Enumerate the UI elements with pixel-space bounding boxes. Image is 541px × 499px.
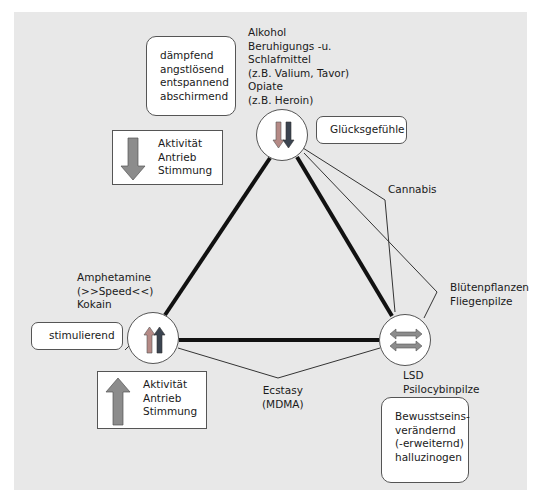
cannabis-path: [303, 148, 395, 312]
left-effects-text: stimulierend: [49, 329, 115, 343]
top-effects-text: dämpfend angstlösend entspannend abschir…: [160, 49, 229, 103]
edge-top-right: [297, 157, 392, 316]
double-down-arrows-icon: [257, 110, 309, 162]
double-up-arrows-icon: [128, 313, 180, 365]
right-effects-text: Bewusstseins- verändernd (-erweiternd) h…: [395, 410, 470, 464]
right-node-circle: [379, 314, 431, 366]
glueck-box: Glücksgefühle: [316, 116, 407, 144]
left-effects-box: stimulierend: [31, 322, 123, 350]
top-effects-box: dämpfend angstlösend entspannend abschir…: [146, 36, 236, 116]
left-node-circle: [127, 312, 179, 364]
down-arrow-icon: [119, 134, 149, 184]
right-substances-label: LSD Psilocybinpilze: [403, 369, 480, 396]
top-level-text: Aktivität Antrieb Stimmung: [158, 137, 212, 178]
double-horizontal-arrows-icon: [380, 315, 432, 367]
top-node-circle: [256, 109, 308, 161]
ecstasy-label: Ecstasy (MDMA): [262, 384, 304, 411]
right-effects-box: Bewusstseins- verändernd (-erweiternd) h…: [381, 397, 469, 483]
glueck-text: Glücksgefühle: [330, 123, 405, 137]
top-substances-label: Alkohol Beruhigungs -u. Schlafmittel (z.…: [248, 26, 349, 107]
top-level-box: Aktivität Antrieb Stimmung: [112, 130, 223, 185]
ecstasy-path: [178, 348, 380, 378]
bluetenpflanzen-path: [304, 153, 437, 318]
left-level-box: Aktivität Antrieb Stimmung: [97, 371, 207, 429]
left-level-text: Aktivität Antrieb Stimmung: [143, 378, 197, 419]
bluetenpflanzen-label: Blütenpflanzen Fliegenpilze: [450, 281, 529, 308]
left-substances-label: Amphetamine (>>Speed<<) Kokain: [77, 271, 153, 312]
up-arrow-icon: [104, 375, 134, 430]
cannabis-label: Cannabis: [388, 183, 437, 197]
